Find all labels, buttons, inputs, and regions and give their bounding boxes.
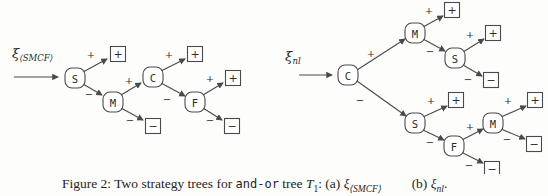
caption-xi-a-sub: ⟨SMCF⟩ xyxy=(349,184,381,194)
edge-sign-label: + xyxy=(165,49,173,60)
leaf-sign: + xyxy=(228,72,237,85)
caption-text: . xyxy=(444,176,447,191)
node-label: S xyxy=(452,53,458,65)
leaf-sign: − xyxy=(148,120,157,133)
strategy-tree-b: ξnl+−+−+−+−+−+−CMSSFM++−+−+− xyxy=(285,3,543,175)
edge-sign-label: + xyxy=(425,5,433,16)
strategy-label: ξnl xyxy=(285,48,301,66)
caption-code-andor: and-or xyxy=(236,177,279,191)
caption-text: Figure 2: Two strategy trees for xyxy=(62,176,236,191)
leaf-sign: + xyxy=(113,48,122,61)
figure-diagram: ξ⟨SMCF⟩+−+−+−+−SMCF+−++−ξnl+−+−+−+−+−+−C… xyxy=(0,0,548,174)
leaf-sign: + xyxy=(190,48,199,61)
edge-minus xyxy=(357,81,406,116)
edge-plus xyxy=(83,59,107,72)
leaf-sign: + xyxy=(530,94,539,107)
edge-plus xyxy=(161,59,185,71)
edge-sign-label: + xyxy=(87,49,95,60)
edge-sign-label: − xyxy=(426,46,434,57)
edge-plus xyxy=(423,106,447,117)
leaf-sign: − xyxy=(529,138,538,151)
edge-sign-label: + xyxy=(504,95,512,106)
leaf-sign: − xyxy=(487,163,496,174)
caption-xi-b-sub: nl xyxy=(437,184,444,194)
edge-sign-label: − xyxy=(503,134,511,145)
edge-sign-label: − xyxy=(356,95,364,106)
leaf-sign: + xyxy=(488,27,497,40)
node-label: C xyxy=(345,70,351,82)
node-label: M xyxy=(412,28,418,40)
edge-sign-label: − xyxy=(163,94,171,105)
node-label: M xyxy=(490,118,496,130)
leaf-sign: + xyxy=(447,4,456,17)
figure-page: ξ⟨SMCF⟩+−+−+−+−SMCF+−++−ξnl+−+−+−+−+−+−C… xyxy=(0,0,548,196)
figure-caption: Figure 2: Two strategy trees for and-or … xyxy=(62,175,447,193)
node-label: S xyxy=(72,73,78,85)
edge-plus xyxy=(501,106,526,117)
strategy-label: ξ⟨SMCF⟩ xyxy=(12,45,53,63)
edge-sign-label: + xyxy=(466,29,474,40)
edge-sign-label: + xyxy=(466,121,474,132)
caption-b-label: (b) xyxy=(412,176,431,191)
node-label: F xyxy=(192,97,198,109)
caption-text: tree xyxy=(279,176,306,191)
edge-sign-label: + xyxy=(125,75,133,86)
edge-plus xyxy=(203,83,223,95)
edge-sign-label: − xyxy=(85,89,93,100)
edge-sign-label: − xyxy=(464,74,472,85)
strategy-tree-a: ξ⟨SMCF⟩+−+−+−+−SMCF+−++− xyxy=(12,45,241,134)
figure-diagram-container: ξ⟨SMCF⟩+−+−+−+−SMCF+−++−ξnl+−+−+−+−+−+−C… xyxy=(0,0,548,174)
edge-sign-label: − xyxy=(206,115,214,126)
node-label: C xyxy=(150,72,156,84)
node-label: M xyxy=(110,97,116,109)
leaf-sign: + xyxy=(451,94,460,107)
edge-sign-label: − xyxy=(426,137,434,148)
edge-plus xyxy=(357,39,405,70)
edge-sign-label: + xyxy=(427,95,435,106)
edge-sign-label: + xyxy=(367,48,375,59)
edge-sign-label: + xyxy=(206,73,214,84)
edge-sign-label: − xyxy=(126,115,134,126)
leaf-sign: − xyxy=(227,120,236,133)
edge-sign-label: − xyxy=(465,160,473,171)
node-label: S xyxy=(412,118,418,130)
caption-text: : (a) xyxy=(318,176,343,191)
leaf-sign: − xyxy=(486,74,495,87)
node-label: F xyxy=(451,141,457,153)
edge-plus xyxy=(423,16,443,27)
edge-plus xyxy=(463,39,484,52)
